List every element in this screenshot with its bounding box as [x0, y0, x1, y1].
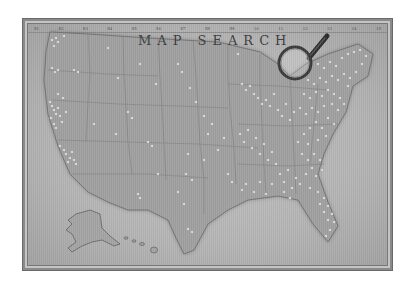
map-title: MAP SEARCH [138, 33, 303, 48]
magnifying-glass [28, 24, 387, 265]
us-map [28, 24, 387, 265]
scale-label: 11 [278, 24, 283, 32]
top-scale: 81 82 83 84 85 86 87 88 89 10 11 12 13 1… [28, 24, 387, 33]
scale-label: 86 [156, 24, 161, 32]
alaska-shape [66, 210, 120, 252]
map-paper: 81 82 83 84 85 86 87 88 89 10 11 12 13 1… [28, 24, 387, 265]
scale-label: 81 [34, 24, 39, 32]
scale-label: 12 [303, 24, 308, 32]
scale-label: 10 [254, 24, 259, 32]
scale-label: 13 [327, 24, 332, 32]
scale-label: 83 [83, 24, 88, 32]
scale-label: 15 [376, 24, 381, 32]
magnifier-icon [279, 36, 327, 79]
scale-label: 82 [58, 24, 63, 32]
scale-label: 88 [205, 24, 210, 32]
map-frame: 81 82 83 84 85 86 87 88 89 10 11 12 13 1… [23, 19, 392, 270]
contiguous-us-shape [44, 32, 373, 254]
scale-label: 14 [351, 24, 356, 32]
scale-label: 87 [181, 24, 186, 32]
push-pins [49, 35, 368, 238]
scale-label: 89 [229, 24, 234, 32]
hawaii-shape [124, 237, 158, 253]
scale-label: 85 [132, 24, 137, 32]
scale-label: 84 [107, 24, 112, 32]
